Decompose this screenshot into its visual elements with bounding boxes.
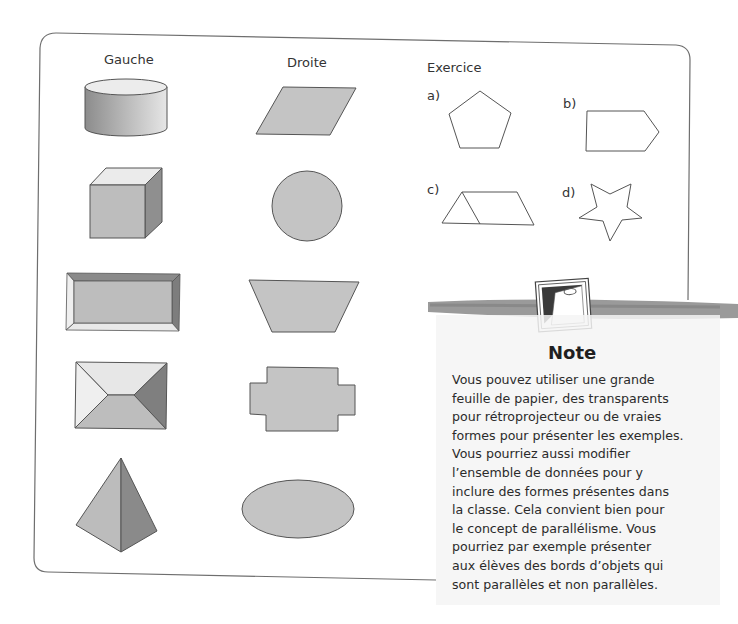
note-line: formes pour présenter les exemples. [452, 427, 702, 446]
note-line: aux élèves des bords d’objets qui [452, 557, 702, 576]
cylinder-shape [85, 79, 167, 136]
circle-shape [272, 171, 342, 241]
note-line: Vous pouvez utiliser une grande [452, 371, 702, 390]
triangular-pyramid-shape [76, 458, 157, 552]
note-body: Vous pouvez utiliser une grande feuille … [452, 371, 702, 594]
trapezoid-with-triangle-shape [442, 192, 534, 225]
cross-polygon-shape [250, 367, 355, 431]
pyramid-top-view-shape [75, 362, 167, 429]
note-line: l’ensemble de données pour y [452, 464, 702, 483]
note-line: Vous pourriez aussi modifier [452, 445, 702, 464]
pentagon-arrow-shape [586, 111, 659, 151]
star-shape [579, 184, 642, 241]
bevelled-rectangle-shape [66, 273, 180, 331]
note-line: feuille de papier, des transparents [452, 390, 702, 409]
parallelogram-shape [256, 87, 356, 135]
note-line: la classe. Cela convient bien pour [452, 501, 702, 520]
note-line: sont parallèles et non parallèles. [452, 576, 702, 595]
ellipse-shape [242, 480, 354, 538]
pentagon-shape [449, 91, 511, 148]
cube-shape [90, 168, 162, 238]
trapezoid-shape [249, 280, 359, 332]
note-title: Note [548, 342, 596, 363]
note-line: pourriez par exemple présenter [452, 538, 702, 557]
note-line: pour rétroprojecteur ou de vraies [452, 408, 702, 427]
note-line: le concept de parallélisme. Vous [452, 520, 702, 539]
note-line: inclure des formes présentes dans [452, 483, 702, 502]
